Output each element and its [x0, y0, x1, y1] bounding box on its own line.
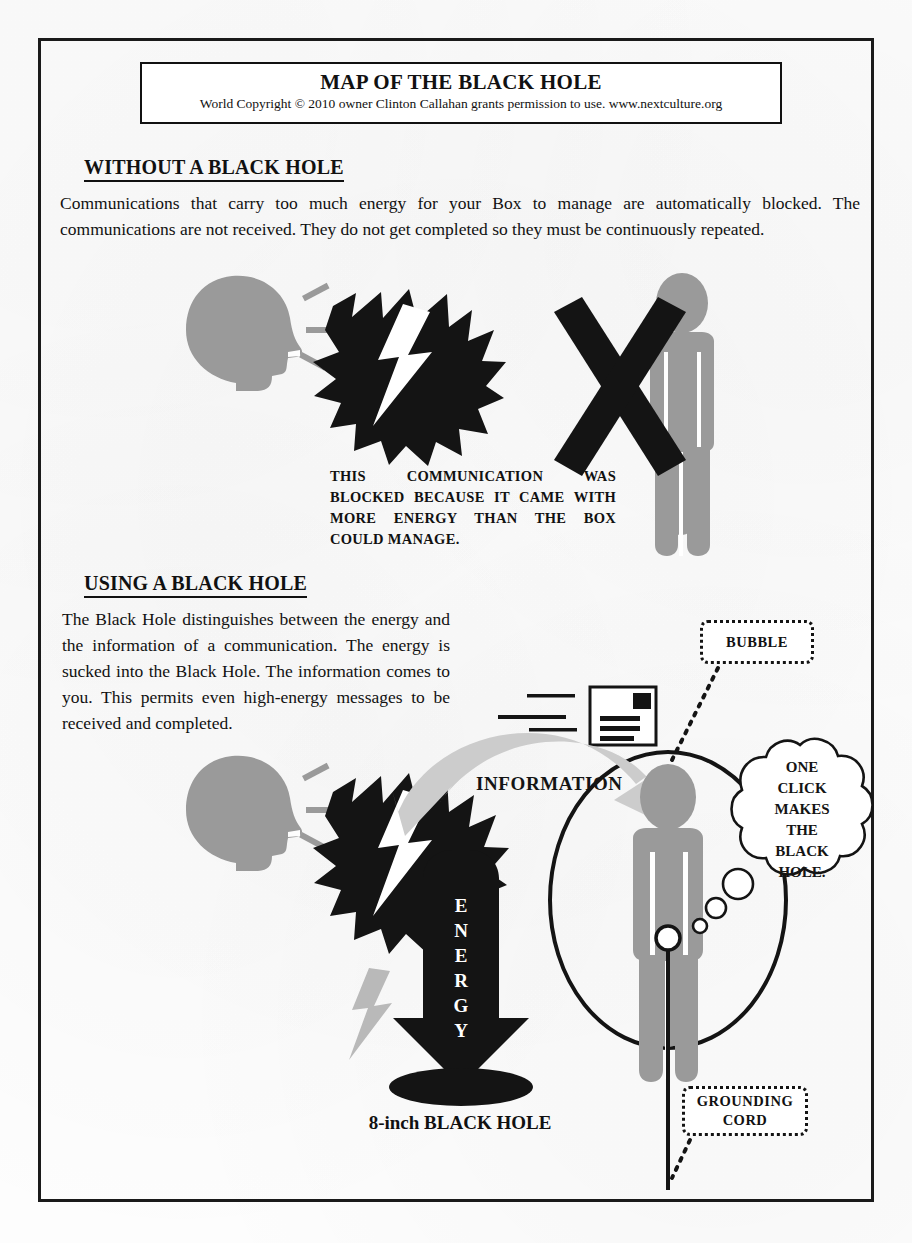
label-bubble: BUBBLE [700, 620, 814, 664]
caption-blocked-communication: THIS COMMUNICATION WAS BLOCKED BECAUSE I… [330, 466, 616, 550]
title-box: MAP OF THE BLACK HOLE World Copyright © … [140, 62, 782, 124]
section-heading-without: WITHOUT A BLACK HOLE [84, 156, 344, 182]
label-grounding-cord-text: GROUNDING CORD [697, 1092, 793, 1130]
section-heading-using: USING A BLACK HOLE [84, 572, 307, 598]
page-root: MAP OF THE BLACK HOLE World Copyright © … [0, 0, 912, 1243]
section-body-using: The Black Hole distinguishes between the… [62, 606, 450, 736]
section-body-without: Communications that carry too much energ… [60, 190, 860, 242]
page-title: MAP OF THE BLACK HOLE [142, 70, 780, 94]
copyright-line: World Copyright © 2010 owner Clinton Cal… [142, 95, 780, 113]
label-bubble-text: BUBBLE [726, 633, 788, 652]
caption-black-hole: 8-inch BLACK HOLE [300, 1112, 620, 1134]
label-grounding-cord: GROUNDING CORD [682, 1086, 808, 1136]
